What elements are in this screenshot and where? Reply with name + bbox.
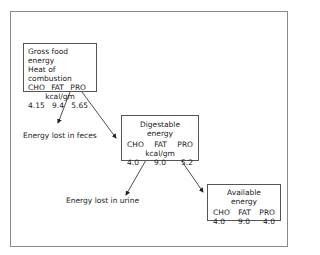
- gross-subtitle: Heat of combustion: [28, 65, 92, 83]
- value-fat: 9.0: [154, 158, 166, 167]
- value-pro: 5.65: [71, 101, 88, 110]
- gross-energy-box: Gross food energy Heat of combustion CHO…: [23, 43, 97, 92]
- available-energy-box: Available energy CHO FAT PRO 4.0 9.0 4.0: [207, 184, 281, 221]
- value-cho: 4.0: [213, 217, 225, 226]
- value-cho: 4.15: [28, 101, 45, 110]
- digestable-energy-box: Digestable energy CHO FAT PRO kcal/gm 4.…: [121, 115, 199, 161]
- urine-label: Energy lost in urine: [66, 196, 139, 205]
- value-pro: 5.2: [181, 158, 193, 167]
- value-fat: 9.4: [52, 101, 64, 110]
- unit: kcal/gm: [28, 92, 92, 101]
- header-cho: CHO: [213, 208, 230, 217]
- header-cho: CHO: [127, 140, 144, 149]
- value-fat: 9.0: [238, 217, 250, 226]
- header-cho: CHO: [28, 83, 45, 92]
- unit: kcal/gm: [127, 149, 193, 158]
- value-cho: 4.0: [127, 158, 139, 167]
- header-fat: FAT: [51, 83, 64, 92]
- available-title: Available energy: [213, 188, 275, 206]
- feces-label: Energy lost in feces: [23, 131, 97, 140]
- header-fat: FAT: [154, 140, 167, 149]
- gross-title: Gross food energy: [28, 47, 92, 65]
- digestable-title: Digestable energy: [127, 120, 193, 138]
- header-pro: PRO: [177, 140, 193, 149]
- value-pro: 4.0: [263, 217, 275, 226]
- header-fat: FAT: [238, 208, 251, 217]
- header-pro: PRO: [70, 83, 86, 92]
- header-pro: PRO: [259, 208, 275, 217]
